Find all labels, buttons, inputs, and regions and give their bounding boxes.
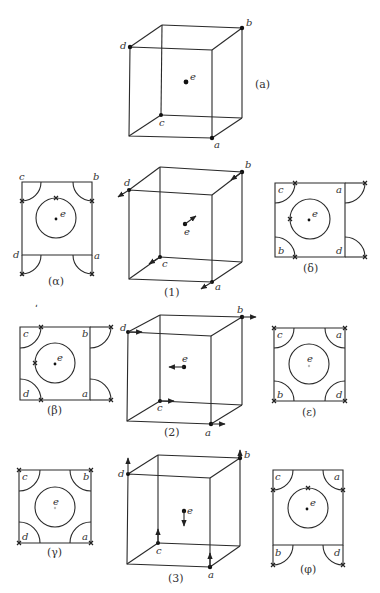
svg-text:a: a <box>334 471 340 482</box>
svg-text:e: e <box>182 353 188 364</box>
cube-2: b d c a e (2) <box>120 304 256 439</box>
svg-text:b: b <box>245 159 251 170</box>
svg-text:a: a <box>94 250 100 261</box>
svg-text:c: c <box>157 402 163 413</box>
arrow-e <box>185 216 196 224</box>
svg-text:b: b <box>278 245 284 256</box>
caption-alpha: (α) <box>48 275 64 288</box>
caption-gamma: (γ) <box>47 546 62 559</box>
svg-text:e: e <box>187 505 193 516</box>
arrow-c <box>149 257 160 264</box>
svg-text:d: d <box>334 547 340 558</box>
svg-text:e: e <box>312 208 318 219</box>
svg-text:e: e <box>307 353 313 364</box>
svg-text:c: c <box>162 258 168 269</box>
vertex-b <box>240 26 244 30</box>
svg-text:c: c <box>23 328 29 339</box>
section-alpha: c b d a e (α) <box>13 171 100 288</box>
center-atom-e <box>184 80 189 85</box>
svg-text:c: c <box>19 171 25 182</box>
svg-text:d: d <box>13 249 19 260</box>
section-epsilon: c a b d e (ε) <box>272 326 347 419</box>
svg-text:a: a <box>208 569 214 580</box>
svg-text:c: c <box>275 471 281 482</box>
label-d: d <box>120 40 126 51</box>
svg-text:b: b <box>237 304 243 315</box>
svg-text:a: a <box>336 329 342 340</box>
caption-2: (2) <box>164 426 180 439</box>
svg-text:a: a <box>82 531 88 542</box>
svg-text:d: d <box>118 468 124 479</box>
section-delta: c a b d e (δ) <box>275 181 367 275</box>
arrow-d <box>118 190 129 197</box>
cube-1: b d c a e (1) <box>118 159 251 299</box>
svg-text:c: c <box>277 329 283 340</box>
label-c: c <box>159 117 165 128</box>
svg-text:d: d <box>120 322 126 333</box>
section-phi: c a b d e (φ) <box>271 470 345 576</box>
caption-beta: (β) <box>47 404 62 417</box>
svg-text:e: e <box>310 497 316 508</box>
svg-text:b: b <box>93 171 99 182</box>
svg-text:e: e <box>57 352 63 363</box>
cube-3: b d c a e (3) <box>118 449 250 585</box>
svg-text:b: b <box>275 547 281 558</box>
svg-text:b: b <box>277 389 283 400</box>
svg-text:a: a <box>215 281 221 292</box>
svg-text:c: c <box>22 471 28 482</box>
lattice-vibration-diagram: b d c a e (a) b d c a e (1) <box>0 0 380 593</box>
svg-text:b: b <box>244 449 250 460</box>
svg-text:b: b <box>83 471 89 482</box>
section-gamma: c b d a e (γ) <box>17 468 93 559</box>
svg-text:e: e <box>53 496 59 507</box>
svg-text:d: d <box>124 177 130 188</box>
svg-text:e: e <box>184 226 190 237</box>
svg-text:e: e <box>60 208 66 219</box>
svg-text:d: d <box>336 245 342 256</box>
svg-text:d: d <box>336 389 342 400</box>
stray-mark: ˌ <box>35 297 38 308</box>
label-a: a <box>214 139 220 150</box>
svg-text:a: a <box>205 427 211 438</box>
label-e: e <box>190 71 196 82</box>
svg-text:a: a <box>336 184 342 195</box>
caption-1: (1) <box>164 286 180 299</box>
svg-text:d: d <box>23 388 29 399</box>
label-b: b <box>246 17 252 28</box>
svg-text:a: a <box>82 388 88 399</box>
svg-text:c: c <box>156 545 162 556</box>
svg-text:d: d <box>22 531 28 542</box>
arrow-b <box>231 172 242 180</box>
caption-phi: (φ) <box>300 563 316 576</box>
svg-text:b: b <box>82 328 88 339</box>
caption-epsilon: (ε) <box>302 406 316 419</box>
vertex-d <box>128 45 132 49</box>
arrow-a <box>201 282 212 289</box>
caption-delta: (δ) <box>303 262 318 275</box>
caption-a: (a) <box>255 78 270 91</box>
main-cube-a: b d c a e (a) <box>120 17 270 150</box>
svg-text:c: c <box>278 184 284 195</box>
section-beta: c b d a e (β) <box>20 325 113 417</box>
caption-3: (3) <box>168 572 184 585</box>
